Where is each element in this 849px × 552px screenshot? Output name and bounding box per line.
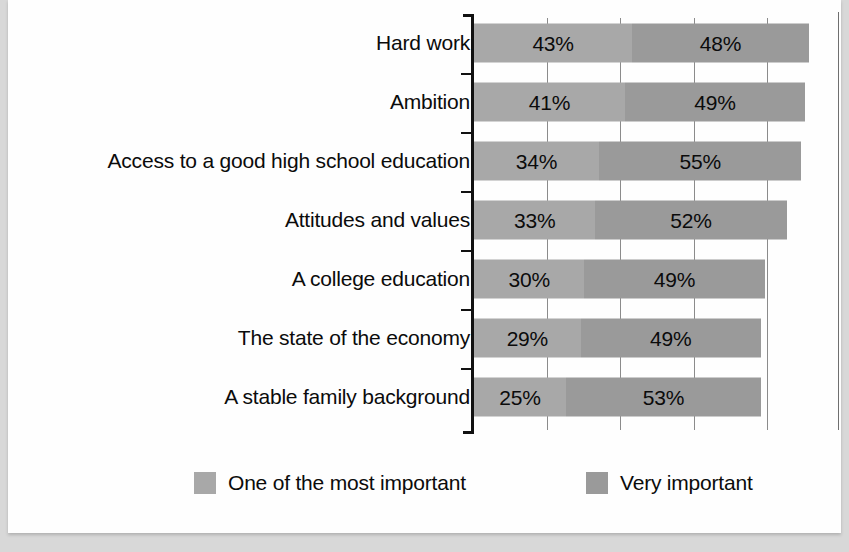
category-label: Access to a good high school education	[108, 149, 470, 173]
bar-value-label: 34%	[516, 149, 557, 173]
bar-segment-very-important: 49%	[581, 319, 761, 358]
category-label: The state of the economy	[238, 326, 470, 350]
category-label: Hard work	[376, 31, 470, 55]
bar-value-label: 49%	[694, 90, 735, 114]
stacked-bar: 29% 49%	[474, 319, 761, 358]
chart-legend: One of the most important Very important	[8, 468, 841, 508]
category-label: A college education	[292, 267, 470, 291]
bar-value-label: 52%	[670, 208, 711, 232]
y-axis-cap-bottom	[463, 431, 474, 434]
stacked-bar: 41% 49%	[474, 83, 805, 122]
legend-swatch-icon	[194, 472, 216, 494]
bar-value-label: 43%	[532, 31, 573, 55]
bar-value-label: 49%	[654, 267, 695, 291]
bar-value-label: 41%	[529, 90, 570, 114]
bar-row: A stable family background 25% 53%	[8, 368, 841, 426]
category-label: Attitudes and values	[285, 208, 470, 232]
stacked-bar: 43% 48%	[474, 24, 809, 63]
stacked-bar: 30% 49%	[474, 260, 765, 299]
bar-segment-most-important: 29%	[474, 319, 581, 358]
legend-label: One of the most important	[228, 471, 466, 495]
bar-value-label: 53%	[643, 385, 684, 409]
bar-segment-very-important: 49%	[584, 260, 764, 299]
bar-row: Attitudes and values 33% 52%	[8, 191, 841, 249]
bar-value-label: 29%	[507, 326, 548, 350]
stacked-bar: 33% 52%	[474, 201, 787, 240]
bar-value-label: 30%	[508, 267, 549, 291]
bar-segment-very-important: 49%	[625, 83, 805, 122]
bar-row: Ambition 41% 49%	[8, 73, 841, 131]
bar-value-label: 25%	[499, 385, 540, 409]
document-page: Hard work 43% 48% Ambition 41% 49%	[8, 0, 841, 533]
bar-value-label: 49%	[650, 326, 691, 350]
category-label: A stable family background	[224, 385, 470, 409]
bar-row: A college education 30% 49%	[8, 250, 841, 308]
bar-segment-very-important: 53%	[566, 378, 761, 417]
bar-value-label: 55%	[680, 149, 721, 173]
bar-value-label: 33%	[514, 208, 555, 232]
bar-segment-very-important: 55%	[599, 142, 801, 181]
bar-segment-most-important: 33%	[474, 201, 595, 240]
stacked-bar: 34% 55%	[474, 142, 801, 181]
legend-label: Very important	[620, 471, 753, 495]
bar-segment-very-important: 52%	[595, 201, 786, 240]
stacked-bar-chart: Hard work 43% 48% Ambition 41% 49%	[8, 0, 841, 533]
legend-swatch-icon	[586, 472, 608, 494]
stacked-bar: 25% 53%	[474, 378, 761, 417]
bar-row: The state of the economy 29% 49%	[8, 309, 841, 367]
bar-segment-most-important: 41%	[474, 83, 625, 122]
bar-segment-most-important: 43%	[474, 24, 632, 63]
bar-row: Access to a good high school education 3…	[8, 132, 841, 190]
bar-segment-very-important: 48%	[632, 24, 809, 63]
bar-segment-most-important: 30%	[474, 260, 584, 299]
bar-segment-most-important: 34%	[474, 142, 599, 181]
category-label: Ambition	[390, 90, 470, 114]
legend-item-very-important: Very important	[586, 468, 753, 498]
legend-item-most-important: One of the most important	[194, 468, 466, 498]
bar-segment-most-important: 25%	[474, 378, 566, 417]
bar-value-label: 48%	[700, 31, 741, 55]
bar-row: Hard work 43% 48%	[8, 14, 841, 72]
